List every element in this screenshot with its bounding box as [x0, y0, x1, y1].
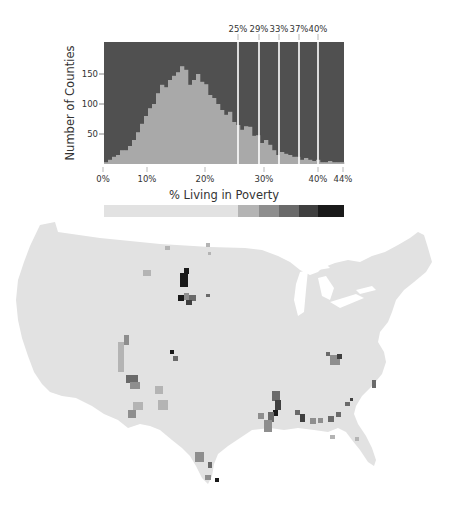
county-cluster	[118, 342, 124, 372]
histogram-bar	[104, 162, 108, 164]
us-county-poverty-map	[0, 212, 462, 509]
county-cluster	[206, 294, 210, 297]
histogram-bar	[252, 136, 256, 164]
county-cluster	[128, 410, 136, 418]
histogram-bar	[116, 155, 120, 164]
county-cluster	[350, 398, 353, 401]
county-cluster	[158, 400, 168, 410]
county-cluster	[318, 418, 323, 423]
county-cluster	[184, 293, 189, 300]
y-tick-label: 150	[82, 69, 98, 79]
x-axis-ticks: 0%10%20%30%40%44%	[96, 167, 352, 184]
x-tick-label: 44%	[334, 174, 353, 184]
county-cluster	[310, 418, 316, 424]
histogram-bar	[320, 162, 324, 164]
histogram-bar	[240, 130, 244, 164]
us-mainland-shape	[16, 222, 432, 484]
county-cluster	[272, 391, 280, 401]
histogram-bar	[156, 93, 160, 164]
county-cluster	[264, 420, 272, 432]
histogram-bar	[280, 152, 284, 164]
histogram-bar	[148, 108, 152, 164]
county-cluster	[215, 478, 219, 482]
county-cluster	[173, 356, 178, 361]
x-tick-label: 40%	[309, 174, 328, 184]
county-cluster	[208, 252, 211, 255]
threshold-label: 37%	[290, 24, 309, 34]
y-axis-ticks: 50100150	[82, 69, 104, 139]
histogram-bar	[176, 72, 180, 164]
histogram-bar	[340, 162, 344, 164]
county-cluster	[208, 462, 212, 468]
county-cluster	[195, 452, 204, 462]
county-cluster	[184, 268, 189, 274]
histogram-bar	[172, 76, 176, 164]
county-cluster	[180, 273, 188, 287]
county-cluster	[124, 335, 129, 345]
histogram-bar	[128, 146, 132, 164]
histogram-bar	[248, 127, 252, 164]
county-cluster	[258, 413, 264, 419]
histogram-bar	[308, 160, 312, 164]
histogram-bar	[192, 80, 196, 164]
county-cluster	[143, 270, 151, 276]
threshold-label: 29%	[250, 24, 269, 34]
histogram-bar	[208, 95, 212, 164]
histogram-bar	[140, 124, 144, 164]
histogram-bar	[264, 140, 268, 164]
y-axis-title: Number of Counties	[63, 45, 77, 160]
x-tick-label: 20%	[196, 174, 215, 184]
histogram-bar	[312, 161, 316, 164]
histogram-bar	[112, 157, 116, 164]
county-cluster	[133, 402, 143, 410]
county-cluster	[126, 375, 138, 383]
histogram-bar	[108, 160, 112, 164]
histogram-bar	[220, 110, 224, 164]
county-cluster	[295, 410, 300, 415]
county-cluster	[186, 300, 192, 305]
county-cluster	[178, 295, 184, 301]
histogram-bar	[144, 116, 148, 164]
histogram-bar	[216, 104, 220, 164]
histogram-bar	[224, 115, 228, 164]
histogram-bar	[324, 162, 328, 164]
threshold-label: 33%	[270, 24, 289, 34]
county-cluster	[275, 400, 281, 410]
histogram-bar	[168, 80, 172, 164]
county-cluster	[205, 475, 211, 480]
histogram-bar	[300, 160, 304, 164]
county-cluster	[300, 414, 305, 422]
county-cluster	[206, 243, 210, 247]
histogram-bar	[180, 66, 184, 164]
county-cluster	[155, 386, 163, 394]
histogram-bar	[184, 70, 188, 164]
threshold-label: 25%	[229, 24, 248, 34]
histogram-bar	[160, 85, 164, 164]
histogram-bar	[124, 150, 128, 164]
histogram-bar	[288, 155, 292, 164]
histogram-bar	[260, 143, 264, 164]
histogram-bar	[136, 132, 140, 164]
x-tick-label: 10%	[138, 174, 157, 184]
histogram-bar	[188, 85, 192, 164]
histogram-bar	[304, 158, 308, 164]
histogram-bar	[292, 157, 296, 164]
county-cluster	[165, 246, 170, 250]
county-cluster	[372, 380, 376, 388]
histogram-bar	[164, 87, 168, 164]
histogram-bar	[196, 74, 200, 164]
county-cluster	[355, 437, 359, 441]
threshold-label: 40%	[309, 24, 328, 34]
x-tick-label: 30%	[255, 174, 274, 184]
histogram-bar	[212, 98, 216, 164]
histogram-bar	[232, 122, 236, 164]
histogram-bar	[152, 104, 156, 164]
histogram-bar	[272, 150, 276, 164]
county-cluster	[336, 412, 341, 417]
histogram-bar	[328, 161, 332, 164]
histogram-bar	[244, 126, 248, 164]
y-tick-label: 100	[82, 99, 98, 109]
county-cluster	[337, 354, 342, 359]
histogram-bar	[268, 145, 272, 164]
county-cluster	[130, 382, 140, 389]
